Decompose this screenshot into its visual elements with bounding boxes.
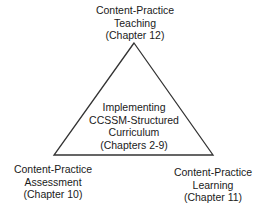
center-curriculum: Implementing CCSSM-Structured Curriculum… [84, 101, 184, 151]
vertex-assessment: Content-Practice Assessment (Chapter 10) [3, 163, 103, 201]
teaching-chapter: (Chapter 12) [85, 29, 185, 42]
teaching-subtitle: Teaching [85, 17, 185, 30]
vertex-teaching: Content-Practice Teaching (Chapter 12) [85, 4, 185, 42]
assessment-subtitle: Assessment [3, 176, 103, 189]
assessment-chapter: (Chapter 10) [3, 188, 103, 201]
assessment-title: Content-Practice [3, 163, 103, 176]
center-line-2: CCSSM-Structured [84, 114, 184, 127]
learning-title: Content-Practice [163, 166, 263, 179]
teaching-title: Content-Practice [85, 4, 185, 17]
vertex-learning: Content-Practice Learning (Chapter 11) [163, 166, 263, 204]
center-line-1: Implementing [84, 101, 184, 114]
center-line-3: Curriculum [84, 126, 184, 139]
learning-subtitle: Learning [163, 179, 263, 192]
learning-chapter: (Chapter 11) [163, 191, 263, 204]
center-chapters: (Chapters 2-9) [84, 139, 184, 152]
